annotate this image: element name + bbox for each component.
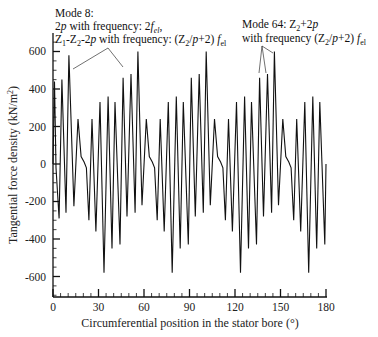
x-ticks <box>53 289 326 297</box>
x-tick-label: 0 <box>50 301 56 313</box>
y-tick-label: -400 <box>25 233 46 245</box>
y-tick-label: -200 <box>25 195 46 207</box>
annotation-arrow <box>108 48 123 67</box>
x-tick-label: 150 <box>272 301 290 313</box>
y-tick-label: -600 <box>25 271 46 283</box>
y-axis-title: Tangential force density (kN/m2) <box>6 86 20 244</box>
annotation-arrow <box>262 46 266 73</box>
annotation-mode-64-line1: Mode 64: Z2+2p <box>242 18 319 33</box>
chart: -600 -400 -200 0 200 400 600 0 30 60 90 … <box>0 0 378 337</box>
y-tick-label: 600 <box>29 45 47 57</box>
x-tick-labels: 0 30 60 90 120 150 180 <box>50 301 335 313</box>
y-tick-label: 400 <box>29 83 47 95</box>
annotation-mode-8: Mode 8: 2p with frequency: 2fel, Z1-Z2-2… <box>55 7 227 69</box>
y-tick-labels: -600 -400 -200 0 200 400 600 <box>25 45 46 283</box>
annotation-mode-8-line1: Mode 8: <box>55 7 94 19</box>
y-tick-label: 200 <box>29 121 47 133</box>
annotation-mode-64-line2: with frequency (Z2/p+2) fel <box>242 32 367 47</box>
annotation-arrow <box>259 46 262 73</box>
x-tick-label: 180 <box>317 301 335 313</box>
x-tick-label: 30 <box>93 301 105 313</box>
annotation-mode-64: Mode 64: Z2+2p with frequency (Z2/p+2) f… <box>242 18 367 73</box>
annotation-arrow <box>73 48 108 69</box>
data-series-line <box>53 52 326 273</box>
x-tick-label: 120 <box>226 301 244 313</box>
x-axis-title: Circumferential position in the stator b… <box>81 316 298 330</box>
annotation-mode-8-line3: Z1-Z2-2p with frequency: (Z2/p+2) fel <box>55 33 227 48</box>
x-tick-label: 90 <box>184 301 196 313</box>
y-tick-label: 0 <box>40 158 46 170</box>
x-tick-label: 60 <box>138 301 150 313</box>
annotation-arrow <box>262 46 273 53</box>
